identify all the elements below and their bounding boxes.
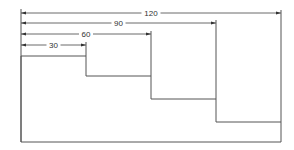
dimension-label-60: 60 xyxy=(82,30,91,39)
arrowhead-left-60 xyxy=(21,33,26,36)
arrowhead-left-120 xyxy=(21,12,26,15)
dimension-label-90: 90 xyxy=(114,19,123,28)
arrowhead-right-120 xyxy=(276,12,281,15)
dimension-label-30: 30 xyxy=(49,41,58,50)
arrowhead-right-90 xyxy=(211,22,216,25)
arrowhead-left-90 xyxy=(21,22,26,25)
arrowhead-right-30 xyxy=(81,44,86,47)
arrowhead-left-30 xyxy=(21,44,26,47)
stepped-dimension-diagram: 306090120 xyxy=(0,0,294,150)
dimension-label-120: 120 xyxy=(144,9,158,18)
arrowhead-right-60 xyxy=(146,33,151,36)
